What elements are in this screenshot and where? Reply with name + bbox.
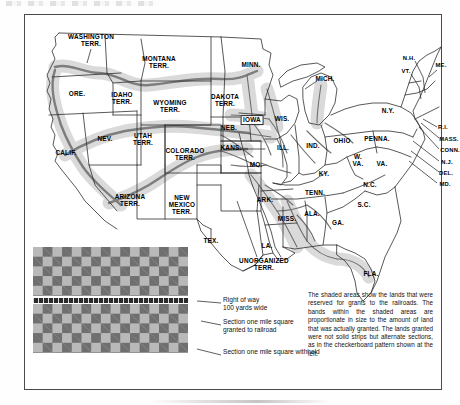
top-scan-artifact: [6, 1, 156, 6]
explanatory-note: The shaded areas show the lands that wer…: [308, 291, 433, 358]
map-figure-frame: WASHINGTON TERR.MONTANA TERR.ORE.IDAHO T…: [24, 14, 442, 390]
map-legend: [33, 247, 223, 353]
checkerboard-upper: [33, 247, 188, 296]
leader-lines: [409, 61, 439, 183]
checkerboard-lower: [33, 304, 188, 353]
map-label: CONN.: [440, 147, 460, 153]
bottom-scan-artifact: [150, 400, 330, 403]
right-of-way-strip: [33, 298, 188, 303]
legend-withheld-label: Section one mile square withheld: [223, 348, 320, 356]
legend-right-of-way-label: Right of way 100 yards wide: [223, 296, 267, 312]
legend-granted-label: Section one mile square granted to railr…: [223, 318, 294, 334]
washington-terr-leader: [87, 49, 91, 63]
unorganized-terr-leader: [237, 201, 257, 257]
